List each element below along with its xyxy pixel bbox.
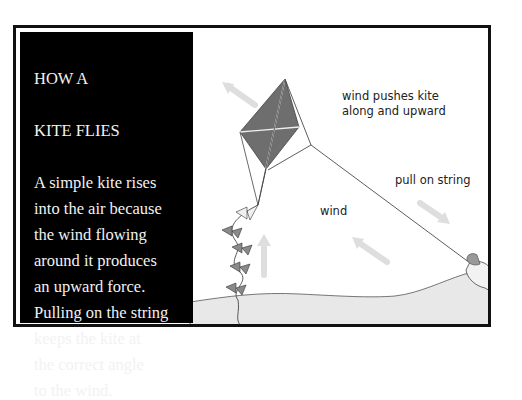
wind-arrow-icon xyxy=(352,237,387,262)
tail-bow-icon xyxy=(222,205,258,295)
panel-title-line2: KITE FLIES xyxy=(34,118,194,144)
info-panel-text: HOW A KITE FLIES A simple kite rises int… xyxy=(34,40,194,400)
upward-arrow-icon xyxy=(257,234,271,275)
label-wind: wind xyxy=(320,204,347,219)
wind-arrow-icon xyxy=(420,203,450,224)
label-pull-on-string: pull on string xyxy=(395,173,471,188)
panel-body: A simple kite rises into the air because… xyxy=(34,170,194,400)
panel-title-line1: HOW A xyxy=(34,66,194,92)
wind-arrow-icon xyxy=(222,82,255,105)
label-wind-pushes: wind pushes kite along and upward xyxy=(342,89,446,119)
label-wind-pushes-line1: wind pushes kite xyxy=(342,89,446,104)
ground-hill xyxy=(190,268,500,330)
label-wind-pushes-line2: along and upward xyxy=(342,104,446,119)
